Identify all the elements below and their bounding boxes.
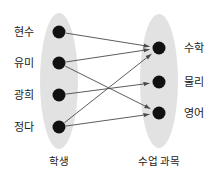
node-math[interactable]	[153, 42, 166, 55]
edge-yumi-to-english	[65, 66, 150, 109]
node-physics[interactable]	[153, 76, 166, 89]
node-label-hyunsu: 현수	[14, 27, 34, 38]
edge-hyunsu-to-math	[66, 33, 150, 46]
bipartite-mapping-diagram: 현수유미광희정다학생수학물리영어수업 과목	[0, 0, 219, 178]
domain_set-caption: 학생	[49, 156, 69, 167]
node-gwanghee[interactable]	[53, 89, 66, 102]
edge-yumi-to-math	[66, 49, 149, 62]
node-label-jeongda: 정다	[14, 122, 34, 133]
node-label-math: 수학	[184, 43, 204, 54]
node-yumi[interactable]	[53, 57, 66, 70]
node-english[interactable]	[153, 107, 166, 120]
node-hyunsu[interactable]	[53, 26, 66, 39]
node-label-english: 영어	[184, 108, 204, 119]
node-label-physics: 물리	[184, 77, 204, 88]
codomain_set-caption: 수업 과목	[138, 156, 181, 167]
node-label-gwanghee: 광희	[14, 90, 34, 101]
node-jeongda[interactable]	[53, 121, 66, 134]
node-label-yumi: 유미	[14, 58, 34, 69]
edge-jeongda-to-english	[66, 114, 149, 126]
